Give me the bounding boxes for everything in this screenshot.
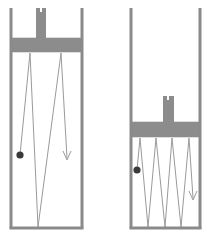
piston-rod[interactable] [36,8,46,38]
piston-head[interactable] [11,38,82,52]
piston-diagram-svg [0,0,212,240]
piston-head[interactable] [131,122,200,137]
figure-root [0,0,212,240]
gas-particle [133,166,140,173]
gas-particle [16,151,23,158]
piston-rod-notch [40,7,42,12]
piston-rod-notch [167,95,169,100]
expanded-cylinder [10,7,84,228]
compressed-cylinder [130,8,202,228]
